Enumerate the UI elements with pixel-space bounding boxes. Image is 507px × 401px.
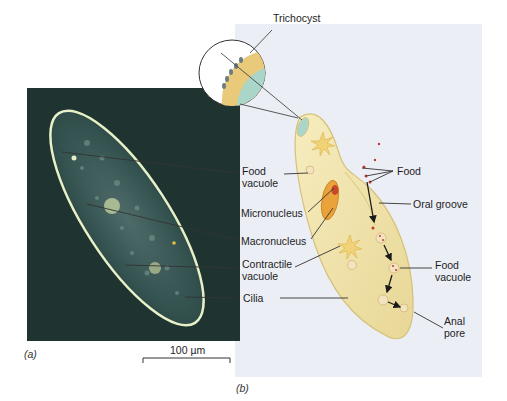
label-cilia: Cilia xyxy=(243,292,263,304)
label-oral-groove: Oral groove xyxy=(413,198,468,210)
label-trichocyst: Trichocyst xyxy=(273,12,320,24)
caption-panel-b: (b) xyxy=(236,382,249,394)
label-anal-pore: Anal pore xyxy=(444,315,465,339)
label-macronucleus: Macronucleus xyxy=(241,235,306,247)
label-contractile-vacuole: Contractile vacuole xyxy=(242,258,292,282)
label-food-vacuole-right: Food vacuole xyxy=(435,259,471,283)
label-food-vacuole-left: Food vacuole xyxy=(242,165,278,189)
caption-panel-a: (a) xyxy=(24,348,37,360)
scale-bar-label: 100 µm xyxy=(170,344,205,356)
label-micronucleus: Micronucleus xyxy=(241,207,303,219)
label-food: Food xyxy=(397,165,421,177)
